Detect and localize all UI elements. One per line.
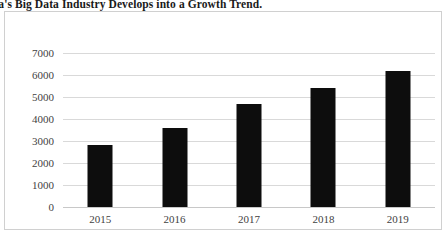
bar-2015[interactable] bbox=[88, 145, 113, 207]
x-tick-label-2017: 2017 bbox=[238, 213, 260, 225]
bar-2018[interactable] bbox=[311, 88, 336, 207]
bar-slot bbox=[63, 12, 137, 229]
y-tick-label: 3000 bbox=[32, 135, 54, 147]
x-axis: 20152016201720182019 bbox=[63, 209, 435, 225]
x-tick-label-2019: 2019 bbox=[387, 213, 409, 225]
bar-slot bbox=[286, 12, 360, 229]
figure-caption: hina's Big Data Industry Develops into a… bbox=[0, 0, 446, 11]
y-tick-label: 7000 bbox=[32, 47, 54, 59]
x-tick-label-2015: 2015 bbox=[89, 213, 111, 225]
bar-slot bbox=[137, 12, 211, 229]
y-axis: 01000200030004000500060007000 bbox=[5, 12, 61, 229]
y-tick-label: 0 bbox=[49, 201, 55, 213]
y-tick-label: 4000 bbox=[32, 113, 54, 125]
chart-frame: 01000200030004000500060007000 2015201620… bbox=[4, 11, 442, 230]
bar-2016[interactable] bbox=[162, 128, 187, 207]
x-tick-label-2016: 2016 bbox=[164, 213, 186, 225]
y-tick-label: 1000 bbox=[32, 179, 54, 191]
y-tick-label: 6000 bbox=[32, 69, 54, 81]
bar-slot bbox=[212, 12, 286, 229]
bar-2017[interactable] bbox=[236, 104, 261, 207]
bar-slot bbox=[361, 12, 435, 229]
y-tick-label: 2000 bbox=[32, 157, 54, 169]
bar-2019[interactable] bbox=[385, 71, 410, 207]
x-tick-label-2018: 2018 bbox=[312, 213, 334, 225]
bar-series bbox=[63, 12, 435, 229]
bar-chart-plot-area: 01000200030004000500060007000 2015201620… bbox=[5, 12, 441, 229]
y-tick-label: 5000 bbox=[32, 91, 54, 103]
